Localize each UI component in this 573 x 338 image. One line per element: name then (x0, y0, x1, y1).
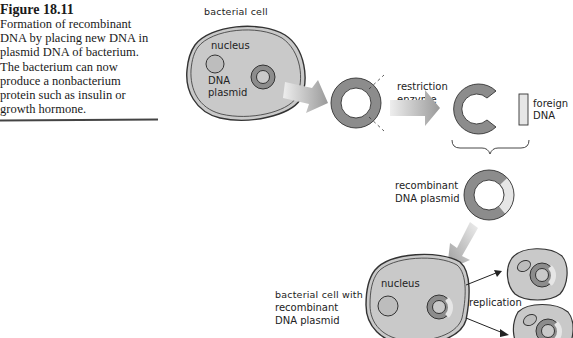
isolated-plasmid (331, 75, 384, 131)
label-replication: replication (469, 297, 522, 308)
label-dna: DNA (208, 75, 230, 86)
label-plasmid: plasmid (208, 87, 247, 98)
label-cell-with-3: DNA plasmid (275, 315, 340, 326)
label-foreign: foreign (533, 98, 568, 109)
nucleus-shape (206, 55, 224, 73)
recombinant-dna-diagram: bacterial cell nucleus DNA plasmid restr… (0, 0, 573, 338)
brace (452, 140, 529, 154)
recombinant-plasmid (464, 170, 514, 220)
bacterial-cell-recombinant (366, 254, 469, 338)
cut-plasmid (454, 84, 496, 134)
label-bacterial-cell: bacterial cell (204, 6, 268, 17)
daughter-cell (513, 305, 573, 338)
daughter-cell (507, 249, 567, 300)
label-cell-with-2: recombinant (275, 302, 338, 313)
arrow-icon (466, 273, 496, 285)
arrow-icon (466, 318, 503, 333)
label-foreign-dna: DNA (533, 110, 555, 121)
label-recombinant: recombinant (395, 180, 458, 191)
label-dna-plasmid: DNA plasmid (395, 193, 460, 204)
foreign-dna-segment (519, 94, 528, 125)
label-nucleus: nucleus (211, 40, 250, 51)
label-nucleus-2: nucleus (381, 278, 420, 289)
label-cell-with-1: bacterial cell with (275, 289, 363, 300)
label-restriction: restriction (397, 81, 448, 92)
